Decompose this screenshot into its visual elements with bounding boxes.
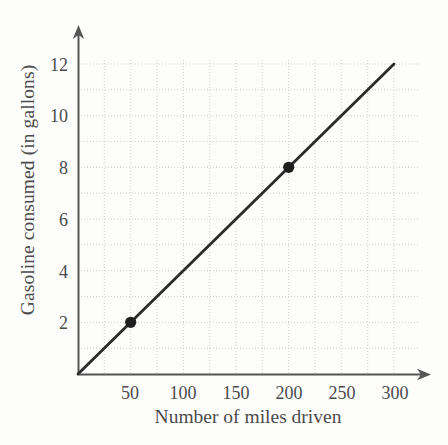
data-point-marker-50-2 xyxy=(125,317,136,328)
x-axis xyxy=(78,369,431,380)
y-axis xyxy=(73,25,84,374)
chart-figure: Gasoline consumed (in gallons) Number of… xyxy=(0,0,448,445)
data-point-marker-200-8 xyxy=(283,162,294,173)
chart-plot-area xyxy=(0,0,448,445)
